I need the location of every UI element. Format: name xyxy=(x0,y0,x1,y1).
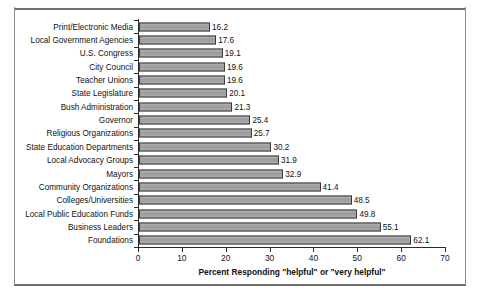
x-axis-tick xyxy=(401,248,402,252)
bar-row: Governor25.4 xyxy=(138,113,445,126)
y-axis-tick xyxy=(134,87,138,88)
y-axis-tick xyxy=(134,20,138,21)
y-axis-tick xyxy=(134,140,138,141)
bar-value-label: 55.1 xyxy=(383,222,399,231)
y-axis-tick xyxy=(134,73,138,74)
bar-category-label: Religious Organizations xyxy=(47,129,133,138)
bar-row: City Council19.6 xyxy=(138,60,445,73)
bar-row: Bush Administration21.3 xyxy=(138,100,445,113)
x-axis-tick-label: 70 xyxy=(440,253,449,263)
y-axis-tick xyxy=(134,167,138,168)
bar-value-label: 41.4 xyxy=(323,182,339,191)
bar-category-label: U.S. Congress xyxy=(80,49,133,58)
x-axis-tick xyxy=(138,248,139,252)
x-axis-tick xyxy=(270,248,271,252)
x-axis-tick xyxy=(357,248,358,252)
bar-category-label: Local Advocacy Groups xyxy=(47,156,133,165)
y-axis-tick xyxy=(134,207,138,208)
bar xyxy=(139,169,283,178)
y-axis-tick xyxy=(134,234,138,235)
y-axis-tick xyxy=(134,220,138,221)
bar-row: Religious Organizations25.7 xyxy=(138,127,445,140)
bar-value-label: 32.9 xyxy=(285,169,301,178)
bar xyxy=(139,36,216,45)
x-axis-tick xyxy=(226,248,227,252)
y-axis-tick xyxy=(134,127,138,128)
y-axis-tick xyxy=(134,180,138,181)
bar xyxy=(139,102,232,111)
x-axis-tick xyxy=(445,248,446,252)
bar-value-label: 17.6 xyxy=(218,36,234,45)
bar xyxy=(139,182,321,191)
x-axis-tick xyxy=(313,248,314,252)
bar-row: Community Organizations41.4 xyxy=(138,180,445,193)
bar xyxy=(139,142,271,151)
y-axis-tick xyxy=(134,100,138,101)
x-axis-tick-label: 40 xyxy=(309,253,318,263)
x-axis-line xyxy=(138,247,446,248)
bar-value-label: 20.1 xyxy=(229,89,245,98)
x-axis-title: Percent Responding "helpful" or "very he… xyxy=(138,267,446,277)
x-axis-tick-label: 60 xyxy=(396,253,405,263)
y-axis-tick xyxy=(134,47,138,48)
x-axis-tick-label: 30 xyxy=(265,253,274,263)
bar-row: Print/Electronic Media16.2 xyxy=(138,20,445,33)
bar-category-label: Community Organizations xyxy=(39,182,133,191)
bar-value-label: 49.8 xyxy=(359,209,375,218)
bar-category-label: State Education Departments xyxy=(26,142,133,151)
bar-row: Mayors32.9 xyxy=(138,167,445,180)
bar-row: State Legislature20.1 xyxy=(138,87,445,100)
x-axis-tick-label: 20 xyxy=(221,253,230,263)
bar-value-label: 19.6 xyxy=(227,62,243,71)
bar xyxy=(139,89,227,98)
bar xyxy=(139,236,411,245)
bar-row: Local Public Education Funds49.8 xyxy=(138,207,445,220)
bar-row: Colleges/Universities48.5 xyxy=(138,194,445,207)
bar xyxy=(139,129,252,138)
bar-row: Local Advocacy Groups31.9 xyxy=(138,154,445,167)
y-axis-tick xyxy=(134,154,138,155)
bar xyxy=(139,222,381,231)
x-axis-tick-label: 50 xyxy=(353,253,362,263)
bar-category-label: Print/Electronic Media xyxy=(53,22,133,31)
bar-category-label: Colleges/Universities xyxy=(57,196,133,205)
plot-area: Print/Electronic Media16.2Local Governme… xyxy=(138,20,445,247)
bar xyxy=(139,116,250,125)
bar xyxy=(139,76,225,85)
x-axis-tick-label: 0 xyxy=(136,253,141,263)
bar-value-label: 31.9 xyxy=(281,156,297,165)
bar-row: Business Leaders55.1 xyxy=(138,220,445,233)
bar-category-label: Local Government Agencies xyxy=(31,36,133,45)
bar-category-label: Foundations xyxy=(88,236,133,245)
bar-value-label: 48.5 xyxy=(354,196,370,205)
bar xyxy=(139,196,352,205)
x-axis-tick xyxy=(182,248,183,252)
bar-category-label: Teacher Unions xyxy=(76,76,133,85)
bar-category-label: State Legislature xyxy=(72,89,133,98)
bar-row: Teacher Unions19.6 xyxy=(138,73,445,86)
bar xyxy=(139,49,223,58)
bar-value-label: 30.2 xyxy=(273,142,289,151)
bar-value-label: 16.2 xyxy=(212,22,228,31)
bar-row: Foundations62.1 xyxy=(138,234,445,247)
bar-category-label: Governor xyxy=(99,116,133,125)
bar-value-label: 25.7 xyxy=(254,129,270,138)
bar-category-label: Local Public Education Funds xyxy=(25,209,133,218)
bar-category-label: Business Leaders xyxy=(68,222,133,231)
bar xyxy=(139,156,279,165)
bar-category-label: Mayors xyxy=(106,169,133,178)
bar-row: Local Government Agencies17.6 xyxy=(138,33,445,46)
horizontal-bar-chart: Print/Electronic Media16.2Local Governme… xyxy=(0,0,480,293)
bar-value-label: 25.4 xyxy=(252,116,268,125)
y-axis-tick xyxy=(134,194,138,195)
bar-category-label: Bush Administration xyxy=(61,102,133,111)
bar-value-label: 19.6 xyxy=(227,76,243,85)
bar-category-label: City Council xyxy=(89,62,133,71)
x-axis-tick-label: 10 xyxy=(177,253,186,263)
bar-value-label: 21.3 xyxy=(234,102,250,111)
bar-value-label: 19.1 xyxy=(225,49,241,58)
y-axis-tick xyxy=(134,60,138,61)
y-axis-tick xyxy=(134,33,138,34)
bar-value-label: 62.1 xyxy=(413,236,429,245)
bar xyxy=(139,209,357,218)
